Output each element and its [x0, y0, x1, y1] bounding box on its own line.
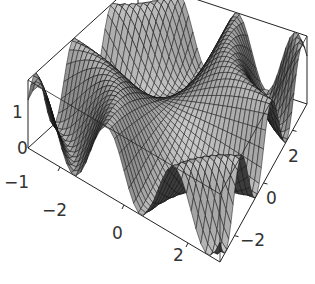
- z-tick-0: 0: [17, 140, 28, 157]
- z-tick-minus1: −1: [4, 174, 29, 191]
- z-tick-1: 1: [12, 104, 23, 121]
- x-tick-minus2: −2: [42, 202, 67, 219]
- y-tick-2: 2: [288, 148, 299, 165]
- x-tick-2: 2: [173, 247, 184, 264]
- y-tick-minus2: −2: [240, 232, 265, 249]
- y-tick-0: 0: [266, 190, 277, 207]
- surface-plot: [0, 0, 315, 284]
- x-tick-0: 0: [112, 225, 123, 242]
